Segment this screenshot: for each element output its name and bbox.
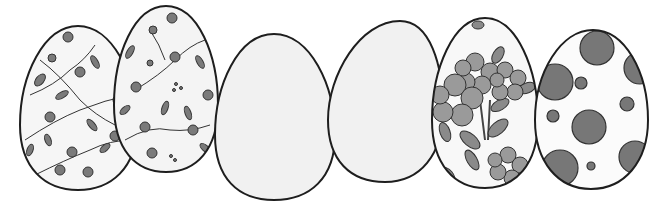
- egg-polka-dots: [535, 30, 656, 189]
- eggs-canvas: [0, 0, 664, 211]
- eggs-illustration: [0, 0, 664, 211]
- egg-small-floral-2: [114, 6, 218, 172]
- egg-large-floral: [431, 18, 538, 188]
- egg-plain-1: [215, 34, 335, 200]
- egg-plain-2: [328, 21, 443, 182]
